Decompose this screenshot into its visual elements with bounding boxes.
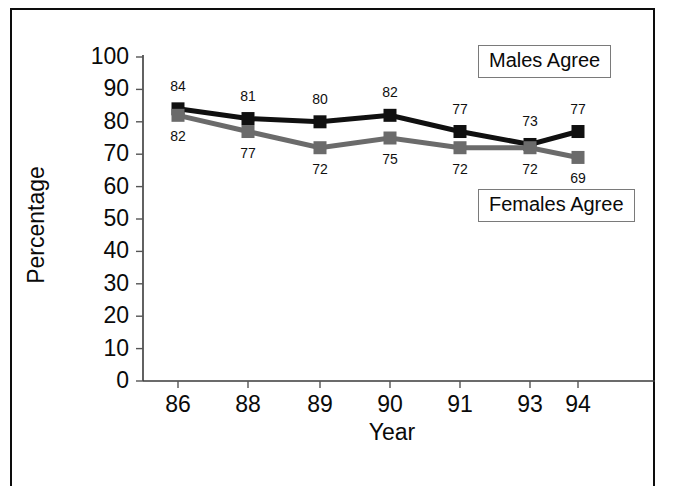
data-point-marker: [242, 125, 255, 138]
y-tick-label: 70: [103, 140, 129, 166]
data-point-label: 72: [452, 161, 468, 177]
y-tick-label: 90: [103, 75, 129, 101]
data-point-marker: [524, 141, 537, 154]
data-point-label: 77: [570, 101, 586, 117]
y-tick-label: 50: [103, 205, 129, 231]
data-point-label: 82: [170, 128, 186, 144]
data-point-label: 77: [240, 145, 256, 161]
x-tick-label: 86: [165, 391, 191, 417]
y-tick-label: 20: [103, 302, 129, 328]
x-tick-label: 90: [377, 391, 403, 417]
data-point-label: 77: [452, 101, 468, 117]
data-point-marker: [572, 151, 585, 164]
data-point-label: 69: [570, 170, 586, 186]
legend-males-agree: Males Agree: [478, 45, 611, 78]
data-point-label: 81: [240, 88, 256, 104]
y-tick-label: 30: [103, 270, 129, 296]
y-tick-group: 0102030405060708090100: [91, 43, 143, 393]
data-point-marker: [384, 109, 397, 122]
data-point-marker: [314, 141, 327, 154]
data-point-marker: [572, 125, 585, 138]
data-point-label: 80: [312, 91, 328, 107]
data-point-marker: [242, 112, 255, 125]
data-point-label: 72: [522, 161, 538, 177]
data-point-label: 73: [522, 113, 538, 129]
data-point-label: 72: [312, 161, 328, 177]
data-point-marker: [314, 115, 327, 128]
y-tick-label: 100: [91, 43, 129, 69]
data-point-label: 84: [170, 78, 186, 94]
y-tick-label: 10: [103, 335, 129, 361]
y-tick-label: 0: [116, 367, 129, 393]
x-tick-label: 89: [307, 391, 333, 417]
data-point-marker: [454, 125, 467, 138]
data-point-marker: [454, 141, 467, 154]
y-tick-label: 40: [103, 237, 129, 263]
data-point-label: 82: [382, 84, 398, 100]
series-line-females-agree: [178, 115, 578, 157]
data-point-marker: [384, 132, 397, 145]
data-label-group: 8481808277737782777275727269: [170, 78, 586, 187]
series-group: [172, 102, 585, 164]
x-axis-title: Year: [369, 419, 416, 445]
y-tick-label: 80: [103, 108, 129, 134]
x-tick-label: 91: [447, 391, 473, 417]
x-tick-label: 88: [235, 391, 261, 417]
legend-females-agree: Females Agree: [478, 189, 635, 222]
data-point-marker: [172, 109, 185, 122]
data-point-label: 75: [382, 151, 398, 167]
x-tick-label: 93: [517, 391, 543, 417]
y-tick-label: 60: [103, 173, 129, 199]
x-tick-group: 86888990919394: [165, 381, 591, 417]
y-axis-title: Percentage: [23, 166, 49, 284]
x-tick-label: 94: [565, 391, 591, 417]
